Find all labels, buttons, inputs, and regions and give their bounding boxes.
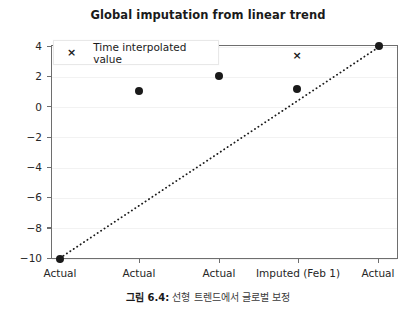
y-tick-label: −10 [12, 252, 42, 264]
y-tick-label: −8 [12, 222, 42, 234]
y-tick-label: −6 [12, 191, 42, 203]
gridline [52, 77, 397, 78]
x-tick-mark [219, 259, 220, 263]
x-tick-mark [378, 259, 379, 263]
x-tick-label: Actual [44, 267, 77, 279]
gridline [52, 228, 397, 229]
data-point-marker [135, 87, 143, 95]
y-tick-mark [47, 137, 51, 138]
y-tick-label: 0 [12, 101, 42, 113]
caption-number: 그림 6.4: [126, 292, 169, 303]
x-tick-label: Actual [123, 267, 156, 279]
y-tick-label: 2 [12, 70, 42, 82]
y-tick-mark [47, 197, 51, 198]
figure-caption: 그림 6.4: 선형 트렌드에서 글로벌 보정 [0, 289, 416, 304]
data-point-marker [56, 255, 64, 263]
gridline [52, 198, 397, 199]
gridline [52, 107, 397, 108]
time-interpolated-value-marker: × [292, 50, 301, 61]
legend: × Time interpolated value [53, 40, 219, 65]
gridline [52, 168, 397, 169]
x-tick-label: Actual [203, 267, 236, 279]
gridline [52, 259, 397, 260]
x-tick-label: Imputed (Feb 1) [256, 267, 340, 279]
x-tick-mark [139, 259, 140, 263]
chart-title: Global imputation from linear trend [0, 8, 416, 22]
y-tick-mark [47, 167, 51, 168]
legend-label: Time interpolated value [93, 41, 218, 65]
plot-area [51, 45, 398, 259]
data-point-marker [375, 42, 383, 50]
y-tick-label: −4 [12, 161, 42, 173]
y-tick-mark [47, 46, 51, 47]
data-point-marker [215, 72, 223, 80]
legend-x-icon: × [67, 47, 76, 58]
y-tick-mark [47, 227, 51, 228]
data-point-marker [293, 85, 301, 93]
y-tick-mark [47, 106, 51, 107]
x-tick-mark [298, 259, 299, 263]
x-tick-label: Actual [362, 267, 395, 279]
y-tick-label: −2 [12, 131, 42, 143]
gridline [52, 137, 397, 138]
figure-container: Global imputation from linear trend 4 2 … [0, 0, 416, 310]
y-tick-mark [47, 76, 51, 77]
caption-text: 선형 트렌드에서 글로벌 보정 [172, 292, 290, 303]
y-tick-mark [47, 258, 51, 259]
y-tick-label: 4 [12, 40, 42, 52]
